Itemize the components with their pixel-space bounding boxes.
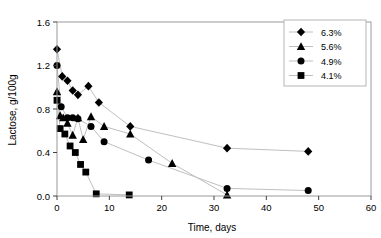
data-point-triangle [168, 159, 176, 167]
data-point-triangle [87, 112, 95, 120]
legend-item-label: 6.3% [321, 28, 342, 38]
lactose-time-scatter-chart: 01020304050600.00.40.81.21.6 6.3%5.6%4.9… [0, 0, 381, 238]
y-tick-label: 0.0 [37, 191, 50, 202]
data-point-square [67, 143, 74, 150]
data-point-circle [145, 157, 152, 164]
data-point-square [72, 149, 79, 156]
legend-marker-circle [298, 58, 305, 65]
data-point-square [77, 161, 84, 168]
y-axis-label: Lactose, g/100g [7, 74, 18, 145]
x-tick-label: 60 [366, 202, 377, 213]
y-tick-label: 0.8 [37, 104, 50, 115]
data-point-circle [224, 185, 231, 192]
legend-marker-square [298, 72, 305, 79]
data-point-triangle [79, 135, 87, 143]
data-point-circle [74, 115, 81, 122]
x-axis-label: Time, days [188, 222, 237, 233]
x-tick-label: 30 [209, 202, 220, 213]
y-tick-label: 1.2 [37, 60, 50, 71]
chart-legend: 6.3%5.6%4.9%4.1% [284, 20, 366, 86]
legend-item-label: 4.1% [321, 71, 342, 81]
data-point-circle [305, 187, 312, 194]
chart-canvas: 01020304050600.00.40.81.21.6 6.3%5.6%4.9… [0, 0, 381, 238]
data-point-diamond [95, 98, 103, 107]
data-point-diamond [304, 147, 312, 156]
legend-item-label: 4.9% [321, 57, 342, 67]
legend-item-label: 5.6% [321, 42, 342, 52]
data-point-square [82, 169, 89, 176]
x-tick-label: 20 [156, 202, 167, 213]
data-point-circle [58, 103, 65, 110]
x-tick-label: 40 [261, 202, 272, 213]
series-lines [57, 49, 308, 195]
data-point-square [126, 192, 133, 199]
series-markers [53, 45, 313, 199]
x-tick-label: 10 [104, 202, 115, 213]
data-point-circle [101, 138, 108, 145]
y-tick-label: 0.4 [37, 147, 50, 158]
data-point-triangle [69, 131, 77, 139]
data-point-diamond [223, 144, 231, 153]
data-point-triangle [100, 122, 108, 130]
data-point-square [61, 131, 68, 138]
data-point-circle [88, 123, 95, 130]
x-tick-label: 50 [313, 202, 324, 213]
x-tick-label: 0 [54, 202, 59, 213]
y-tick-label: 1.6 [37, 17, 50, 28]
data-point-diamond [126, 122, 134, 131]
